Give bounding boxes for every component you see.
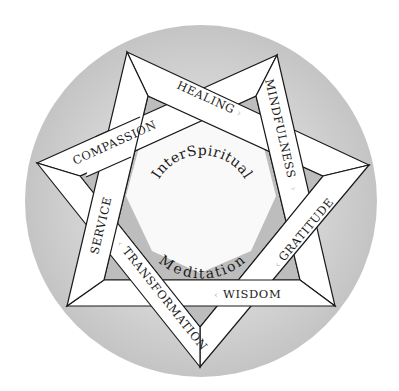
band-wisdom bbox=[67, 280, 335, 306]
label-wisdom: ‹ WISDOM bbox=[214, 287, 281, 301]
heptagram-diagram: HEALING › MINDFULNESS › ‹ GRATITUDE ‹ WI… bbox=[0, 0, 399, 391]
svg-text:‹: ‹ bbox=[214, 289, 218, 300]
svg-text:WISDOM: WISDOM bbox=[223, 287, 281, 301]
